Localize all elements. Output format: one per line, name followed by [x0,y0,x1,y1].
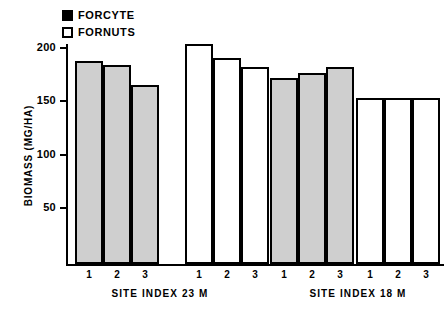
x-tick-label-23m-forcyte-3: 3 [137,269,153,280]
bar-fornuts-23m-3 [241,67,269,264]
x-tick-label-18m-forcyte-1: 1 [276,269,292,280]
x-axis-line-left [66,264,273,266]
bar-forcyte-23m-2 [103,65,131,264]
x-tick-label-23m-fornuts-2: 2 [219,269,235,280]
x-tick-label-18m-fornuts-3: 3 [418,269,434,280]
x-tick-label-23m-forcyte-1: 1 [81,269,97,280]
x-tick-label-18m-forcyte-3: 3 [332,269,348,280]
x-tick-label-23m-fornuts-3: 3 [247,269,263,280]
bar-fornuts-18m-1 [356,98,384,264]
x-tick-label-18m-fornuts-2: 2 [390,269,406,280]
bar-fornuts-18m-3 [412,98,440,264]
x-tick-label-23m-fornuts-1: 1 [191,269,207,280]
biomass-bar-chart: FORCYTE FORNUTS BIOMASS (MG/HA) 200 150 … [0,0,444,310]
x-tick-label-18m-forcyte-2: 2 [304,269,320,280]
bar-forcyte-18m-1 [270,78,298,264]
bar-fornuts-23m-1 [185,44,213,264]
bar-fornuts-18m-2 [384,98,412,264]
bar-forcyte-18m-3 [326,67,354,264]
x-group-title-23m: SITE INDEX 23 M [90,288,230,299]
bar-forcyte-18m-2 [298,73,326,264]
bar-fornuts-23m-2 [213,58,241,264]
x-tick-label-18m-fornuts-1: 1 [362,269,378,280]
x-group-title-18m: SITE INDEX 18 M [288,288,428,299]
bar-forcyte-23m-1 [75,61,103,264]
bar-forcyte-23m-3 [131,85,159,264]
x-axis-line-right [268,264,444,266]
x-tick-label-23m-forcyte-2: 2 [109,269,125,280]
